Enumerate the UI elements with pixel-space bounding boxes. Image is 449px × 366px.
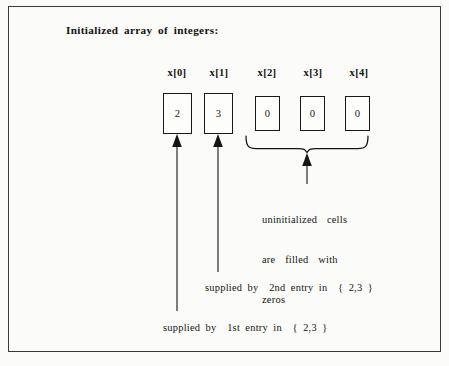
array-cell-x0-value: 2 [175,108,181,119]
cell-label-x4: x[4] [338,66,380,80]
array-cell-x0: 2 [163,93,192,134]
cell-label-x1: x[1] [198,66,240,80]
array-cell-x4-value: 0 [355,108,361,119]
diagram-frame [8,6,441,352]
page-title: Initialized array of integers: [66,23,219,37]
note-uninitialized-line-1: uninitialized cells [262,213,347,226]
cell-label-x2: x[2] [246,66,288,80]
cell-label-x3: x[3] [292,66,334,80]
array-cell-x3: 0 [300,96,325,131]
array-cell-x1-value: 3 [216,108,222,119]
cell-label-x0: x[0] [156,66,198,80]
array-cell-x4: 0 [345,96,370,131]
array-cell-x1: 3 [204,93,233,134]
array-cell-x2: 0 [255,96,280,131]
note-uninitialized-line-2: are filled with [262,253,347,266]
caption-second-entry: supplied by 2nd entry in { 2,3 } [205,281,373,294]
diagram-page: Initialized array of integers: x[0] x[1]… [0,0,449,366]
array-cell-x2-value: 0 [265,108,271,119]
array-cell-x3-value: 0 [310,108,316,119]
caption-first-entry: supplied by 1st entry in { 2,3 } [163,321,328,334]
note-uninitialized-cells: uninitialized cells are filled with zero… [262,186,347,332]
note-uninitialized-line-3: zeros [262,293,347,306]
